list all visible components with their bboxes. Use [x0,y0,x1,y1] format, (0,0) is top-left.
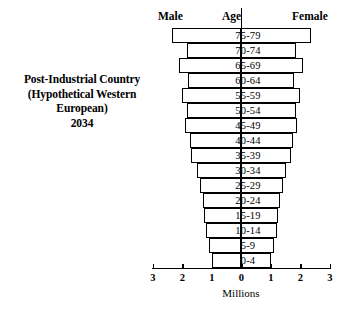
legend-label-male: Male [158,10,183,22]
axis-tick [300,264,301,269]
bar-female [241,223,276,238]
pyramid-row: 50-54 [150,103,346,118]
bar-female [241,43,296,58]
chart-caption: Post-Industrial Country (Hypothetical We… [6,72,158,130]
bar-male [187,43,242,58]
bar-male [209,238,241,253]
bar-male [203,193,241,208]
pyramid-row: 30-34 [150,163,346,178]
caption-line-2: (Hypothetical Western [6,87,158,102]
bar-female [241,103,296,118]
bar-male [206,223,241,238]
pyramid-row: 10-14 [150,223,346,238]
bar-male [200,178,241,193]
caption-line-1: Post-Industrial Country [6,72,158,87]
caption-line-4: 2034 [6,116,158,131]
bar-female [241,118,297,133]
axis-tick-label: 0 [233,272,249,283]
pyramid-headers: Male Age Female [150,8,346,26]
bar-male [204,208,241,223]
axis-title: Millions [150,287,332,299]
bar-female [241,253,271,268]
bar-male [197,163,241,178]
pyramid-row: 15-19 [150,208,346,223]
axis-tick-label: 1 [204,272,220,283]
bar-female [241,58,303,73]
bar-male [188,73,241,88]
bar-female [241,73,294,88]
bar-female [241,178,282,193]
bar-male [185,118,241,133]
bar-male [187,103,242,118]
pyramid-row: 45-49 [150,118,346,133]
bar-male [191,148,241,163]
axis-tick [212,264,213,269]
bar-female [241,88,300,103]
pyramid-row: 5-9 [150,238,346,253]
pyramid-row: 20-24 [150,193,346,208]
axis-tick [271,264,272,269]
pyramid-bars: 75-7970-7465-6960-6455-5950-5445-4940-44… [150,28,346,268]
axis-tick-label: 2 [174,272,190,283]
legend-label-female: Female [292,10,328,22]
caption-line-3: European) [6,101,158,116]
x-axis: 3210123 Millions [150,268,346,313]
bar-female [241,208,278,223]
plot-area: Male Age Female 75-7970-7465-6960-6455-5… [150,8,346,313]
pyramid-row: 75-79 [150,28,346,43]
pyramid-row: 65-69 [150,58,346,73]
pyramid-row: 35-39 [150,148,346,163]
bar-female [241,133,293,148]
axis-tick-label: 3 [322,272,338,283]
bar-female [241,148,291,163]
pyramid-row: 25-29 [150,178,346,193]
axis-tick-label: 2 [292,272,308,283]
pyramid-row: 60-64 [150,73,346,88]
axis-tick [153,264,154,269]
bar-male [212,253,242,268]
pyramid-row: 40-44 [150,133,346,148]
pyramid-row: 55-59 [150,88,346,103]
population-pyramid-figure: Post-Industrial Country (Hypothetical We… [0,0,354,319]
axis-tick [241,264,242,269]
bar-male [182,88,241,103]
bar-female [241,163,285,178]
bar-male [172,28,241,43]
bar-male [179,58,241,73]
axis-label-age: Age [222,10,241,22]
bar-female [241,193,279,208]
axis-tick [182,264,183,269]
bar-male [190,133,242,148]
center-axis-line [241,8,242,256]
axis-tick-label: 3 [145,272,161,283]
pyramid-row: 70-74 [150,43,346,58]
axis-tick-label: 1 [263,272,279,283]
axis-tick [330,264,331,269]
bar-female [241,238,273,253]
pyramid-row: 0-4 [150,253,346,268]
bar-female [241,28,310,43]
